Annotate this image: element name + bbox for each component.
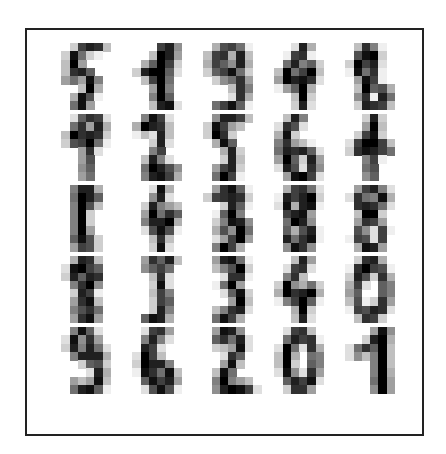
digit-image-1 bbox=[53, 185, 119, 251]
digit-image-9 bbox=[53, 327, 119, 393]
digit-image-5 bbox=[53, 43, 119, 109]
digit-image-2 bbox=[124, 114, 190, 180]
digit-image-3 bbox=[124, 256, 190, 322]
digit-image-9 bbox=[195, 43, 261, 109]
digit-image-8 bbox=[337, 185, 403, 251]
digit-image-4 bbox=[124, 185, 190, 251]
digit-image-8 bbox=[337, 43, 403, 109]
digit-image-8 bbox=[266, 185, 332, 251]
digit-image-3 bbox=[195, 256, 261, 322]
digit-image-6 bbox=[124, 327, 190, 393]
digit-image-4 bbox=[337, 114, 403, 180]
digit-image-4 bbox=[266, 43, 332, 109]
digit-image-3 bbox=[195, 185, 261, 251]
digit-image-8 bbox=[53, 256, 119, 322]
digit-image-4 bbox=[266, 256, 332, 322]
digit-image-0 bbox=[266, 327, 332, 393]
digit-image-2 bbox=[195, 327, 261, 393]
digit-image-4 bbox=[124, 43, 190, 109]
digit-image-9 bbox=[53, 114, 119, 180]
digit-image-5 bbox=[195, 114, 261, 180]
digit-image-0 bbox=[337, 256, 403, 322]
digit-image-1 bbox=[337, 327, 403, 393]
digit-image-6 bbox=[266, 114, 332, 180]
